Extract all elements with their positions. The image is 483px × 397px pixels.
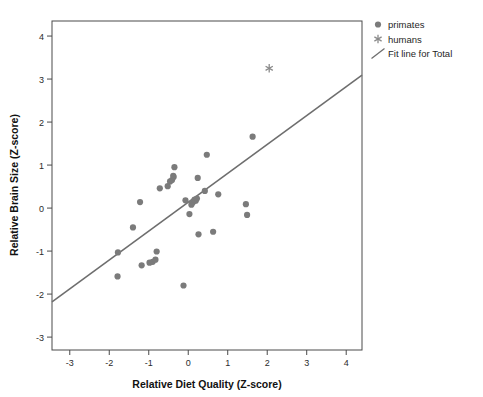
data-point xyxy=(154,248,160,254)
data-point xyxy=(171,174,177,180)
data-point xyxy=(137,199,143,205)
y-axis-title: Relative Brain Size (Z-score) xyxy=(8,114,20,256)
data-point xyxy=(115,249,121,255)
data-point xyxy=(152,257,158,263)
x-axis-title: Relative Diet Quality (Z-score) xyxy=(132,378,281,390)
y-tick-label: 4 xyxy=(39,32,44,42)
data-point xyxy=(114,273,120,279)
x-tick-label: 0 xyxy=(186,358,191,368)
legend-label: Fit line for Total xyxy=(388,48,452,59)
chart-canvas: -3-2-101234 -3-2-101234 Relative Diet Qu… xyxy=(0,0,483,397)
legend-label: primates xyxy=(388,19,425,30)
data-point xyxy=(195,175,201,181)
data-point xyxy=(195,231,201,237)
legend-marker-line-icon xyxy=(372,49,385,59)
y-tick-label: -3 xyxy=(36,333,44,343)
data-point xyxy=(157,185,163,191)
data-point xyxy=(215,191,221,197)
scatter-plot-figure: -3-2-101234 -3-2-101234 Relative Diet Qu… xyxy=(0,0,483,397)
x-tick-label: 2 xyxy=(265,358,270,368)
legend-label: humans xyxy=(388,34,422,45)
data-point xyxy=(182,197,188,203)
y-tick-label: -1 xyxy=(36,247,44,257)
data-point xyxy=(210,229,216,235)
legend-marker-circle-icon xyxy=(375,21,381,27)
data-point xyxy=(243,201,249,207)
x-tick-label: 3 xyxy=(304,358,309,368)
data-point xyxy=(194,196,200,202)
plot-frame xyxy=(52,21,362,350)
y-axis-ticks: -3-2-101234 xyxy=(36,32,52,343)
data-point xyxy=(180,282,186,288)
data-point xyxy=(186,211,192,217)
y-tick-label: 1 xyxy=(39,161,44,171)
x-tick-label: 1 xyxy=(225,358,230,368)
y-tick-label: -2 xyxy=(36,290,44,300)
data-point xyxy=(202,188,208,194)
data-point xyxy=(130,224,136,230)
y-tick-label: 0 xyxy=(39,204,44,214)
legend: primateshumansFit line for Total xyxy=(372,19,453,59)
y-tick-label: 2 xyxy=(39,118,44,128)
x-tick-label: -2 xyxy=(105,358,113,368)
x-tick-label: -1 xyxy=(145,358,153,368)
x-axis-ticks: -3-2-101234 xyxy=(66,350,349,368)
data-point xyxy=(250,134,256,140)
data-point xyxy=(244,212,250,218)
data-point xyxy=(171,164,177,170)
data-point xyxy=(139,262,145,268)
y-tick-label: 3 xyxy=(39,75,44,85)
data-point xyxy=(204,152,210,158)
x-tick-label: -3 xyxy=(66,358,74,368)
x-tick-label: 4 xyxy=(344,358,349,368)
